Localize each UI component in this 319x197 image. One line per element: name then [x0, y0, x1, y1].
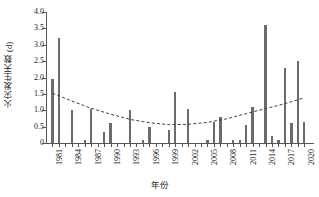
y-axis-tick-mark	[42, 110, 46, 111]
x-axis-tick-label: 1996	[153, 149, 161, 165]
x-axis-tick-mark	[304, 144, 305, 147]
x-axis-tick-mark	[298, 144, 299, 147]
x-axis-tick-mark	[72, 144, 73, 147]
x-axis-tick-label: 1987	[95, 149, 103, 165]
x-axis-tick-mark	[233, 144, 234, 147]
y-axis-tick-label: 0	[18, 139, 44, 147]
y-axis-tick-label: 2.5	[18, 57, 44, 65]
x-axis-title: 年份	[0, 178, 319, 190]
x-axis-tick-label: 2002	[192, 149, 200, 165]
x-axis-tick-mark	[272, 144, 273, 147]
x-axis-tick-mark	[85, 144, 86, 147]
x-axis-tick-mark	[136, 144, 137, 147]
x-axis-tick-mark	[285, 144, 286, 147]
x-axis-tick-mark	[291, 144, 292, 147]
x-axis-tick-mark	[65, 144, 66, 147]
y-axis-tick-label: 1.0	[18, 106, 44, 114]
x-axis-tick-mark	[195, 144, 196, 147]
x-axis-tick-mark	[104, 144, 105, 147]
y-axis-tick-mark	[42, 143, 46, 144]
x-axis-tick-label: 2011	[250, 149, 258, 165]
y-axis-tick-label: 1.5	[18, 90, 44, 98]
x-axis-tick-mark	[111, 144, 112, 147]
x-axis-tick-mark	[259, 144, 260, 147]
x-axis-tick-mark	[156, 144, 157, 147]
fire-occurrence-days-chart: 火灾发生天数 (d) 00.51.01.52.02.53.03.54.0 年份 …	[0, 0, 319, 197]
x-axis-tick-mark	[266, 144, 267, 147]
x-axis-tick-mark	[124, 144, 125, 147]
x-axis-tick-mark	[91, 144, 92, 147]
x-axis-tick-label: 2008	[230, 149, 238, 165]
y-axis-tick-mark	[42, 28, 46, 29]
x-axis-tick-mark	[182, 144, 183, 147]
y-axis-tick-mark	[42, 61, 46, 62]
y-axis-tick-label: 4.0	[18, 8, 44, 16]
y-axis-tick-mark	[42, 12, 46, 13]
x-axis-tick-mark	[278, 144, 279, 147]
x-axis-tick-mark	[162, 144, 163, 147]
x-axis-tick-mark	[220, 144, 221, 147]
y-axis-tick-mark	[42, 127, 46, 128]
y-axis-tick-label: 0.5	[18, 123, 44, 131]
x-axis-tick-label: 1984	[75, 149, 83, 165]
x-axis-tick-mark	[175, 144, 176, 147]
x-axis-tick-mark	[201, 144, 202, 147]
y-axis-tick-label: 3.0	[18, 41, 44, 49]
x-axis-line	[46, 143, 314, 144]
x-axis-tick-mark	[214, 144, 215, 147]
x-axis-tick-mark	[117, 144, 118, 147]
x-axis-tick-mark	[52, 144, 53, 147]
x-axis-tick-mark	[169, 144, 170, 147]
y-axis-tick-labels: 00.51.01.52.02.53.03.54.0	[16, 0, 44, 160]
x-axis-tick-label: 1993	[133, 149, 141, 165]
x-axis-tick-label: 1990	[114, 149, 122, 165]
x-axis-tick-mark	[227, 144, 228, 147]
x-axis-tick-mark	[246, 144, 247, 147]
y-axis-title: 火灾发生天数 (d)	[1, 0, 17, 150]
x-axis-tick-label: 2005	[211, 149, 219, 165]
x-axis-tick-mark	[98, 144, 99, 147]
y-axis-tick-label: 2.0	[18, 74, 44, 82]
x-axis-tick-label: 2020	[308, 149, 316, 165]
x-axis-tick-label: 1981	[56, 149, 64, 165]
x-axis-tick-label: 2014	[269, 149, 277, 165]
x-axis-tick-mark	[149, 144, 150, 147]
y-axis-tick-label: 3.5	[18, 24, 44, 32]
x-axis-tick-mark	[188, 144, 189, 147]
x-axis-tick-mark	[78, 144, 79, 147]
trend-line	[47, 12, 313, 143]
x-axis-tick-mark	[253, 144, 254, 147]
y-axis-tick-mark	[42, 45, 46, 46]
x-axis-tick-mark	[143, 144, 144, 147]
x-axis-tick-label: 1999	[172, 149, 180, 165]
y-axis-tick-mark	[42, 94, 46, 95]
y-axis-tick-mark	[42, 78, 46, 79]
x-axis-tick-mark	[130, 144, 131, 147]
x-axis-tick-mark	[240, 144, 241, 147]
x-axis-tick-label: 2017	[288, 149, 296, 165]
x-axis-tick-mark	[59, 144, 60, 147]
x-axis-tick-mark	[207, 144, 208, 147]
